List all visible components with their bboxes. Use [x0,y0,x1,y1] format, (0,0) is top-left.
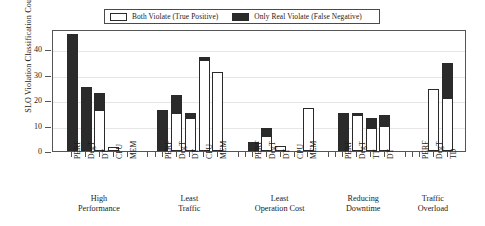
bar-segment-only-real-violate [199,57,210,60]
x-axis-tick [384,152,385,157]
bar-high-performance-perf [67,34,78,151]
x-axis-label-dt: DT [102,149,110,159]
x-axis-tick [342,152,343,157]
x-axis-tick [370,152,371,157]
y-axis-tick-label: 0 [26,148,42,156]
x-axis-tick [433,152,434,157]
x-axis-label-td: TD [450,149,458,159]
x-axis-label-dt: DT [387,149,395,159]
y-axis-tick [45,50,51,51]
bar-traffic-overload-td [442,63,453,151]
x-axis-label-perf: PERF [345,140,353,159]
x-axis-label-perf: PERF [422,140,430,159]
y-axis-tick-label: 10 [26,123,42,131]
x-axis-tick [99,152,100,157]
x-axis-tick [266,152,267,157]
x-axis-tick [203,152,204,157]
y-axis-tick-label: 40 [26,46,42,54]
y-axis-ticks: 010203040 [0,0,52,226]
x-axis-tick [328,152,329,157]
legend-swatch-filled-icon [232,13,249,21]
x-axis-tick [447,152,448,157]
bar-segment-only-real-violate [185,113,196,118]
x-axis-tick [356,152,357,157]
chart-legend: Both Violate (True Positive) Only Real V… [104,9,380,24]
x-axis-label-dt: DT [283,149,291,159]
bar-segment-both-violate [199,60,210,152]
bar-segment-both-violate [379,126,390,151]
x-axis-tick [113,152,114,157]
bar-least-traffic-mem [212,72,223,151]
x-axis-tick [217,152,218,157]
group-label-line1: Traffic [373,194,485,204]
x-axis-tick [162,152,163,157]
plot-inner [53,31,465,151]
x-axis-tick [307,152,308,157]
gridline [53,77,465,78]
group-label-line2: Overload [373,204,485,214]
x-axis-tick [412,152,413,157]
x-axis-tick [280,152,281,157]
bar-segment-only-real-violate [94,93,105,111]
slo-violation-bar-chart: Both Violate (True Positive) Only Real V… [0,0,485,226]
x-axis-label-cpu: CPU [116,144,124,159]
legend-entry-only-real-violate: Only Real Violate (False Negative) [232,13,362,21]
y-axis-tick [45,101,51,102]
bar-reducing-downtime-tt [366,118,377,151]
x-axis-tick [419,152,420,157]
x-axis-label-degt: DegT [179,141,187,159]
x-axis-label-perf: PERF [255,140,263,159]
y-axis-tick [45,76,51,77]
x-axis-label-cpu: CPU [297,144,305,159]
bar-segment-only-real-violate [352,113,363,116]
x-axis-label-degt: DegT [88,141,96,159]
x-axis-tick [238,152,239,157]
gridline [53,128,465,129]
x-axis-tick [252,152,253,157]
bar-segment-both-violate [212,72,223,151]
bar-segment-both-violate [366,128,377,151]
x-axis-label-mem: MEM [130,141,138,159]
y-axis-tick-label: 30 [26,72,42,80]
x-axis-label-perf: PERF [165,140,173,159]
y-axis-tick [45,127,51,128]
x-axis-tick [335,152,336,157]
x-axis-label-cpu: CPU [206,144,214,159]
x-axis-label-mem: MEM [220,141,228,159]
gridline [53,102,465,103]
x-axis-tick [155,152,156,157]
legend-label-both-violate: Both Violate (True Positive) [132,13,218,20]
bar-segment-only-real-violate [67,34,78,151]
x-axis-label-degt: DegT [359,141,367,159]
bar-high-performance-dt [94,93,105,151]
x-axis-tick [127,152,128,157]
bar-reducing-downtime-dt [379,115,390,151]
x-axis-label-dt: DT [192,149,200,159]
group-label-traffic-overload: TrafficOverload [373,194,485,213]
bar-segment-only-real-violate [261,128,272,136]
plot-area [52,30,466,152]
bar-segment-both-violate [94,110,105,151]
y-axis-tick [45,152,51,153]
bar-least-traffic-cpu [199,57,210,151]
bar-segment-only-real-violate [379,115,390,125]
x-axis-tick [405,152,406,157]
x-axis-label-degt: DegT [436,141,444,159]
bar-segment-only-real-violate [366,118,377,128]
y-axis-tick-label: 20 [26,97,42,105]
x-axis-label-mem: MEM [310,141,318,159]
x-axis-label-perf: PERF [74,140,82,159]
gridline [53,51,465,52]
bar-segment-only-real-violate [442,63,453,97]
bar-segment-only-real-violate [171,95,182,113]
x-axis-label-tt: TT [373,150,381,159]
x-axis-tick [294,152,295,157]
legend-entry-both-violate: Both Violate (True Positive) [110,13,218,21]
x-axis-tick [85,152,86,157]
x-axis-tick [71,152,72,157]
x-axis-tick [189,152,190,157]
legend-label-only-real-violate: Only Real Violate (False Negative) [254,13,362,20]
x-axis-label-degt: DegT [269,141,277,159]
x-axis-tick [176,152,177,157]
x-axis-tick [245,152,246,157]
